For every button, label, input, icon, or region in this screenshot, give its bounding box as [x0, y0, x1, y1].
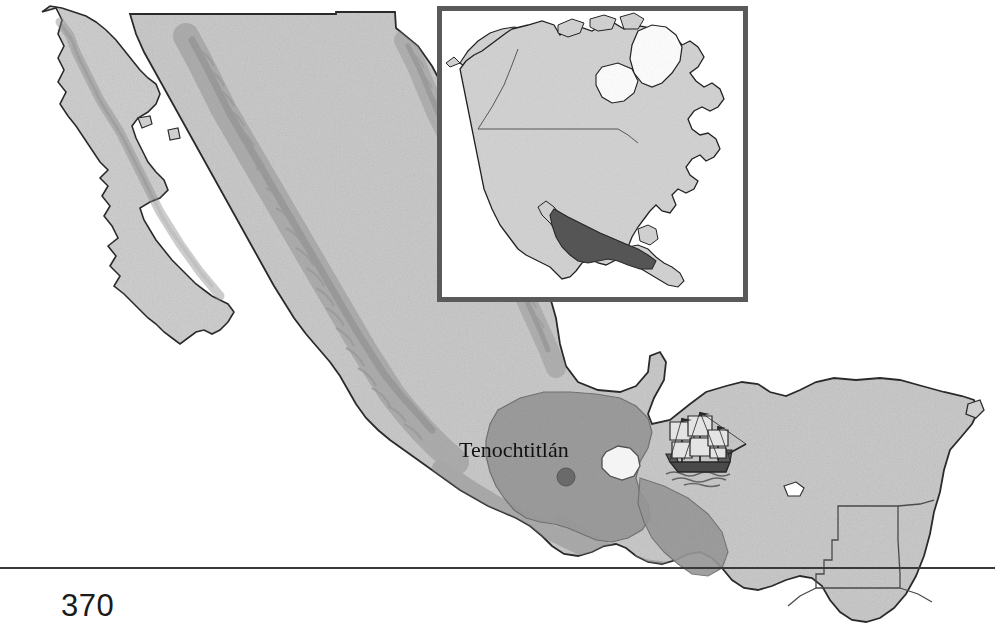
page-number: 370 — [61, 589, 114, 623]
tenochtitlan-label: Tenochtitlán — [459, 438, 569, 462]
map-figure: Tenochtitlán — [0, 0, 995, 627]
north-america-inset — [437, 6, 748, 302]
island-sea-of-cortez-2 — [168, 128, 180, 140]
tenochtitlan-marker-dot[interactable] — [557, 468, 575, 486]
footer-rule — [0, 567, 995, 569]
north-america-inset-svg — [442, 11, 743, 297]
ship-hull — [670, 462, 730, 472]
arctic-island-2 — [590, 15, 616, 31]
book-page: Tenochtitlán — [0, 0, 995, 627]
